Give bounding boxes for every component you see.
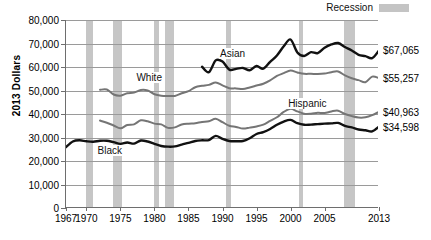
x-tick — [223, 207, 224, 211]
y-tick — [61, 138, 66, 139]
y-tick-label: 10,000 — [28, 179, 59, 190]
plot-area: AsianWhiteHispanicBlack 010,00020,00030,… — [65, 20, 378, 208]
x-tick — [257, 207, 258, 211]
x-tick-label: 1985 — [177, 213, 199, 224]
y-tick-label: 80,000 — [28, 15, 59, 26]
y-tick-label: 60,000 — [28, 62, 59, 73]
x-tick — [120, 207, 121, 211]
y-tick-label: 50,000 — [28, 85, 59, 96]
y-tick-label: 20,000 — [28, 156, 59, 167]
x-tick — [154, 207, 155, 211]
y-tick — [61, 67, 66, 68]
x-tick — [379, 207, 380, 211]
x-tick — [66, 207, 67, 211]
series-label-asian: Asian — [219, 48, 246, 59]
end-label-white: $55,257 — [383, 73, 419, 84]
series-label-white: White — [135, 72, 163, 83]
y-tick-label: 70,000 — [28, 38, 59, 49]
end-label-hispanic: $40,963 — [383, 106, 419, 117]
end-label-asian: $67,065 — [383, 45, 419, 56]
y-tick-label: 40,000 — [28, 109, 59, 120]
chart-legend: Recession — [326, 2, 409, 13]
x-tick-label: 2000 — [279, 213, 301, 224]
x-tick-label: 2005 — [313, 213, 335, 224]
y-tick — [61, 91, 66, 92]
y-tick-label: 0 — [53, 203, 59, 214]
series-line-black — [66, 120, 378, 147]
x-tick-label: 1975 — [109, 213, 131, 224]
income-by-race-line-chart: Recession 2013 Dollars AsianWhiteHispani… — [0, 0, 431, 240]
x-tick — [325, 207, 326, 211]
series-label-hispanic: Hispanic — [287, 98, 327, 109]
x-tick — [86, 207, 87, 211]
x-tick-label: 2013 — [368, 213, 390, 224]
series-line-hispanic — [100, 109, 378, 129]
plot-inner: AsianWhiteHispanicBlack — [66, 20, 378, 207]
x-tick-label: 1980 — [143, 213, 165, 224]
x-tick-label: 1990 — [211, 213, 233, 224]
x-tick-label: 1995 — [245, 213, 267, 224]
x-tick-label: 1967 — [55, 213, 77, 224]
series-label-black: Black — [97, 145, 123, 156]
x-tick — [188, 207, 189, 211]
legend-label-recession: Recession — [326, 2, 373, 13]
y-tick — [61, 185, 66, 186]
legend-swatch-recession — [379, 4, 409, 12]
y-tick — [61, 161, 66, 162]
x-tick-label: 1970 — [75, 213, 97, 224]
y-axis-title: 2013 Dollars — [11, 26, 22, 146]
x-tick — [291, 207, 292, 211]
y-tick-label: 30,000 — [28, 132, 59, 143]
end-label-black: $34,598 — [383, 121, 419, 132]
y-tick — [61, 20, 66, 21]
y-tick — [61, 114, 66, 115]
y-tick — [61, 44, 66, 45]
